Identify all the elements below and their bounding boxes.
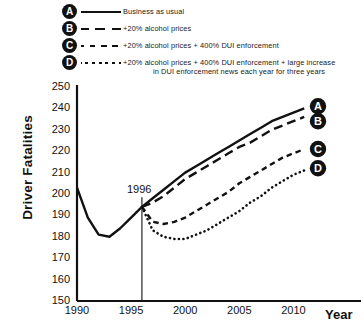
series-endpoint-badge-a: A — [310, 98, 326, 114]
series-endpoint-badge-b: B — [310, 113, 326, 129]
svg-text:D: D — [314, 162, 322, 174]
series-endpoint-badge-c: C — [310, 141, 326, 157]
svg-text:B: B — [314, 115, 322, 127]
chart-figure: A Business as usual B +20% alcohol price… — [0, 0, 364, 332]
svg-text:A: A — [314, 100, 322, 112]
svg-text:C: C — [314, 143, 322, 155]
series-line-d — [142, 170, 304, 238]
series-line-b — [142, 117, 304, 207]
plot-area: ABCD — [0, 0, 364, 332]
series-endpoint-badge-d: D — [310, 160, 326, 176]
series-line-a — [77, 108, 304, 236]
